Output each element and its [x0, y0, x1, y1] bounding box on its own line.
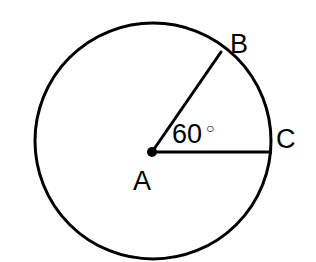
degree-symbol-icon: ○ — [206, 120, 214, 136]
geometry-figure: A B C 60○ — [0, 0, 316, 262]
center-point-dot — [147, 147, 157, 157]
vertex-label-c: C — [276, 126, 296, 153]
vertex-label-b: B — [230, 31, 248, 58]
vertex-label-a: A — [133, 168, 151, 195]
angle-measure-label: 60○ — [172, 121, 215, 148]
angle-value: 60 — [172, 119, 202, 149]
circle-diagram-canvas — [0, 0, 316, 262]
